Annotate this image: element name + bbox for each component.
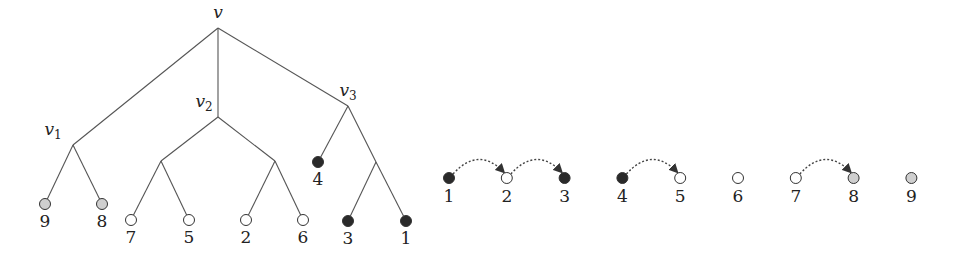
tree-leaf-node-2	[241, 215, 252, 226]
tree-labels: vv1v2v3987526431	[40, 2, 412, 248]
tree-edge-v1-L9	[47, 145, 73, 199]
sequence-node-7	[790, 173, 801, 184]
tree-leaf-node-7	[126, 215, 137, 226]
sequence-label-4: 4	[617, 186, 628, 206]
tree-leaf-node-9	[40, 199, 51, 210]
tree-leaf-node-4	[313, 157, 324, 168]
sequence-node-6	[733, 173, 744, 184]
tree-leaf-label-2: 2	[241, 227, 252, 247]
sequence-label-5: 5	[675, 186, 686, 206]
sequence-arrow-1-2	[453, 159, 504, 174]
tree-leaf-label-5: 5	[184, 227, 195, 247]
tree-edge-v2b-L2	[248, 161, 275, 215]
tree-leaf-label-4: 4	[313, 169, 324, 189]
internal-node-label-v: v	[213, 2, 223, 22]
sequence-node-2	[501, 173, 512, 184]
tree-edges	[47, 28, 403, 216]
diagram-canvas: vv1v2v3987526431 123456789	[0, 0, 958, 259]
sequence-node-4	[617, 173, 628, 184]
sequence-arrow-7-8	[800, 159, 851, 174]
tree-edge-v3a-L1	[376, 162, 404, 216]
tree-leaf-label-8: 8	[97, 211, 108, 231]
tree-leaf-label-1: 1	[401, 228, 412, 248]
tree-edge-v1-L8	[73, 145, 100, 199]
sequence-label-9: 9	[906, 186, 917, 206]
sequence-node-5	[675, 173, 686, 184]
tree-edge-v2b-L6	[275, 161, 301, 215]
sequence-nodes: 123456789	[444, 173, 917, 207]
tree-leaf-node-8	[97, 199, 108, 210]
sequence-label-2: 2	[501, 186, 512, 206]
tree-leaf-label-7: 7	[126, 227, 137, 247]
sequence-label-3: 3	[559, 186, 570, 206]
tree-edge-v3-L4	[321, 106, 348, 157]
tree-leaf-node-3	[343, 216, 354, 227]
tree-leaf-label-3: 3	[343, 228, 354, 248]
sequence-label-7: 7	[790, 186, 801, 206]
tree-leaf-node-1	[401, 216, 412, 227]
tree-edge-v-v3	[218, 28, 348, 106]
sequence-label-8: 8	[848, 186, 859, 206]
tree-edge-v2a-L7	[133, 161, 161, 215]
tree-leaf-node-6	[298, 215, 309, 226]
sequence-node-8	[848, 173, 859, 184]
tree-edge-v2a-L5	[161, 161, 187, 215]
sequence-node-3	[559, 173, 570, 184]
sequence-node-1	[444, 173, 455, 184]
internal-node-label-v1: v1	[44, 119, 61, 142]
internal-node-label-v3: v3	[339, 80, 356, 103]
sequence-node-9	[906, 173, 917, 184]
sequence-arrow-4-5	[626, 159, 677, 174]
tree-edge-v3-v3a	[348, 106, 376, 162]
tree-edge-v2-v2a	[161, 117, 218, 161]
tree-leaf-label-6: 6	[298, 227, 309, 247]
internal-node-label-v2: v2	[195, 91, 212, 114]
tree-leaf-node-5	[184, 215, 195, 226]
sequence-arrows	[453, 159, 851, 174]
sequence-label-6: 6	[733, 186, 744, 206]
tree-edge-v-v1	[73, 28, 218, 145]
sequence-label-1: 1	[444, 186, 455, 206]
tree-leaf-label-9: 9	[40, 211, 51, 231]
tree-edge-v2-v2b	[218, 117, 275, 161]
sequence-arrow-2-3	[511, 159, 562, 174]
tree-edge-v3a-L3	[350, 162, 376, 216]
